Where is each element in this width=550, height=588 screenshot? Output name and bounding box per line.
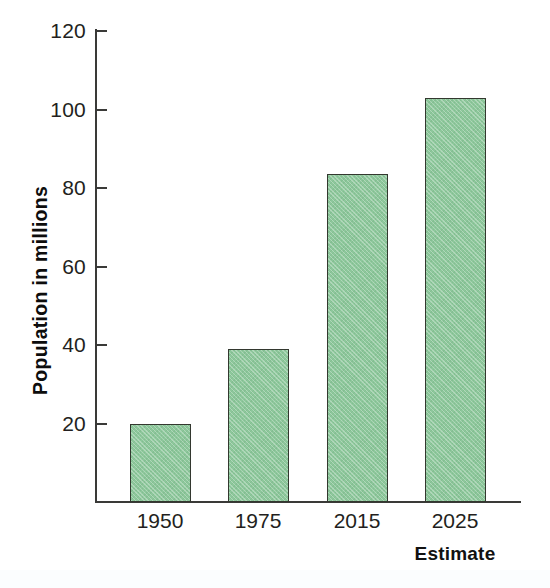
y-axis-tick-120 (96, 30, 107, 32)
bar-chart: 120 100 80 60 40 20 Population in millio… (0, 0, 550, 588)
y-axis-tick-label-120: 120 (34, 20, 86, 41)
bar-2025 (425, 98, 486, 502)
scan-artifact-band (0, 570, 550, 588)
y-axis-tick-60 (96, 266, 107, 268)
y-axis-tick-20 (96, 423, 107, 425)
x-axis-label-1950: 1950 (105, 509, 215, 532)
y-axis-tick-label-20: 20 (34, 413, 86, 434)
y-axis-tick-80 (96, 187, 107, 189)
bar-1975 (228, 349, 289, 502)
y-axis-tick-40 (96, 344, 107, 346)
y-axis-title: Population in millions (26, 95, 54, 395)
x-axis-label-2025: 2025 (400, 509, 510, 532)
bar-1950 (130, 424, 191, 503)
x-axis-note-estimate: Estimate (380, 543, 530, 565)
x-axis-label-1975: 1975 (203, 509, 313, 532)
x-axis-label-2015: 2015 (302, 509, 412, 532)
bar-2015 (327, 174, 388, 502)
y-axis-tick-100 (96, 109, 107, 111)
